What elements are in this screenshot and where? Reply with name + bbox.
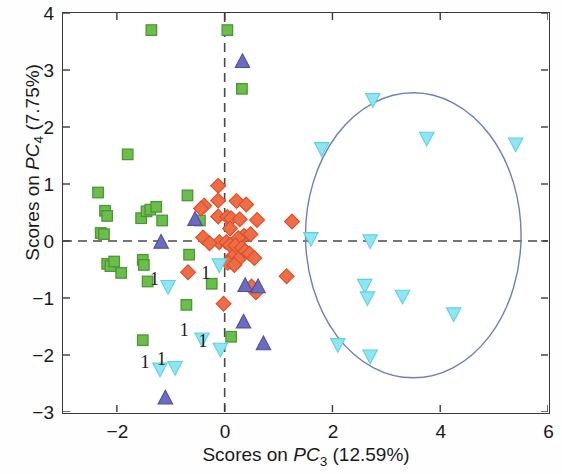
data-point-square — [109, 256, 120, 267]
x-tick-label: 6 — [529, 421, 562, 443]
data-point-diamond — [181, 265, 196, 280]
y-tick-label: −3 — [20, 402, 54, 424]
data-point-triangle-down — [331, 339, 345, 353]
y-tick-label: 1 — [20, 174, 54, 196]
data-point-triangle-down — [446, 308, 460, 322]
data-point-triangle-up — [236, 314, 250, 328]
data-point-triangle-down — [395, 290, 409, 304]
data-point-triangle-down — [508, 138, 522, 152]
data-point-square — [116, 268, 127, 279]
x-axis-label: Scores on PC3 (12.59%) — [62, 444, 550, 469]
data-point-triangle-up — [256, 336, 270, 350]
data-point-triangle-down — [360, 292, 374, 306]
data-point-diamond — [211, 178, 226, 193]
data-point-square — [184, 249, 195, 260]
data-point-triangle-down — [358, 279, 372, 293]
annotation-label: 1 — [140, 352, 149, 372]
x-axis-label-suffix: (12.59%) — [327, 444, 409, 465]
data-point-triangle-down — [168, 361, 182, 375]
plot-area: 111111 — [62, 12, 550, 414]
x-tick-label: 0 — [205, 421, 245, 443]
data-point-triangle-up — [235, 54, 249, 68]
data-point-triangle-down — [420, 132, 434, 146]
data-point-diamond — [250, 213, 265, 228]
data-point-square — [181, 300, 192, 311]
data-point-square — [99, 229, 110, 240]
x-axis-label-pc: PC — [293, 444, 319, 465]
data-point-square — [138, 335, 149, 346]
data-point-square — [237, 84, 248, 95]
annotation-label: 1 — [199, 331, 208, 351]
y-tick-label: 0 — [20, 231, 54, 253]
plot-canvas: 111111 — [63, 13, 548, 412]
annotation-label: 1 — [180, 320, 189, 340]
data-point-square — [102, 211, 113, 222]
data-point-triangle-up — [158, 390, 172, 404]
data-point-diamond — [279, 269, 294, 284]
x-tick-label: 2 — [313, 421, 353, 443]
data-point-diamond — [211, 193, 226, 208]
annotation-label: 1 — [150, 269, 159, 289]
y-axis-label-pc: PC — [22, 143, 43, 169]
data-point-diamond — [285, 214, 300, 229]
data-point-square — [182, 190, 193, 201]
y-tick-label: 4 — [20, 3, 54, 25]
y-tick-label: −1 — [20, 288, 54, 310]
data-point-square — [157, 215, 168, 226]
data-point-square — [93, 187, 104, 198]
scatter-plot-figure: Scores on PC4 (7.75%) Scores on PC3 (12.… — [0, 0, 562, 474]
confidence-ellipse — [306, 93, 522, 378]
data-point-square — [222, 25, 233, 36]
y-tick-label: 3 — [20, 60, 54, 82]
x-tick-label: −2 — [97, 421, 137, 443]
data-point-square — [122, 149, 133, 160]
data-point-square — [146, 25, 157, 36]
data-point-diamond — [216, 296, 231, 311]
y-tick-label: −2 — [20, 345, 54, 367]
annotation-label: 1 — [157, 349, 166, 369]
data-point-triangle-down — [161, 281, 175, 295]
x-tick-label: 4 — [421, 421, 461, 443]
x-axis-label-prefix: Scores on — [202, 444, 293, 465]
data-point-square — [151, 202, 162, 213]
y-tick-label: 2 — [20, 117, 54, 139]
annotation-label: 1 — [201, 263, 210, 283]
data-point-square — [226, 332, 237, 343]
data-point-square — [139, 260, 150, 271]
data-point-triangle-down — [363, 350, 377, 364]
